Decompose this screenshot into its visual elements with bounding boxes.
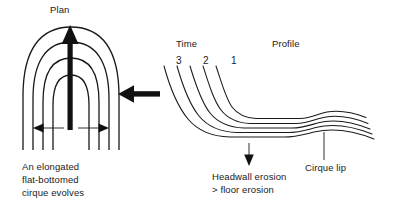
headwall-caption-line-1: Headwall erosion bbox=[212, 170, 286, 183]
profile-curve-2 bbox=[203, 66, 368, 124]
plan-growth-arrow bbox=[62, 25, 79, 130]
plan-caption-line-3: cirque evolves bbox=[22, 186, 84, 199]
cirque-evolution-diagram: Plan An elongated flat-bottomed cirque e… bbox=[0, 0, 395, 212]
time-axis-label: Time bbox=[176, 38, 197, 50]
headwall-erosion-arrow bbox=[244, 143, 254, 166]
time-step-3: 3 bbox=[176, 55, 182, 67]
profile-curve-1 bbox=[216, 66, 366, 119]
transition-arrow-left bbox=[118, 85, 160, 103]
plan-widen-arrow-right bbox=[99, 123, 110, 132]
plan-caption-line-1: An elongated bbox=[22, 160, 79, 173]
plan-widen-arrow-left bbox=[33, 123, 44, 132]
time-step-2: 2 bbox=[203, 55, 209, 67]
plan-title: Plan bbox=[50, 4, 69, 16]
time-step-1: 1 bbox=[231, 55, 237, 67]
profile-title: Profile bbox=[272, 38, 300, 50]
profile-curves bbox=[164, 66, 374, 139]
plan-caption-line-2: flat-bottomed bbox=[22, 173, 79, 186]
cirque-lip-label: Cirque lip bbox=[305, 162, 346, 174]
headwall-caption-line-2: > floor erosion bbox=[212, 183, 274, 196]
profile-curve-3 bbox=[190, 66, 370, 129]
